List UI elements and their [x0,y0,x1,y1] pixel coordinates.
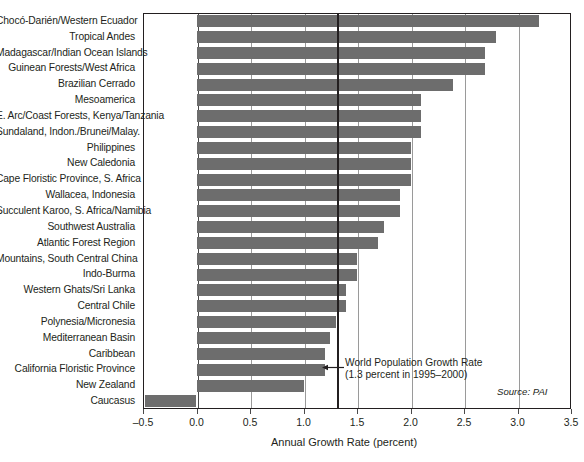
bar-row [143,235,571,251]
bar-row [143,171,571,187]
bar [197,380,304,392]
bar-row [143,330,571,346]
bar [197,174,411,186]
bar-row [143,45,571,61]
bar-row [143,251,571,267]
category-label: Cape Floristic Province, S. Africa [0,173,135,184]
category-label: Caribbean [0,348,135,359]
population-growth-bar-chart: Chocó-Darién/Western EcuadorTropical And… [0,0,584,462]
category-label: Mediterranean Basin [0,332,135,343]
category-label: Western Ghats/Sri Lanka [0,284,135,295]
x-tick-label: 2.5 [457,416,472,428]
x-tick-mark [143,409,144,414]
bar-row [143,187,571,203]
bar-row [143,314,571,330]
bar-row [143,29,571,45]
category-label: Polynesia/Micronesia [0,316,135,327]
bar [197,253,358,265]
x-tick-mark [250,409,251,414]
category-label: E. Arc/Coast Forests, Kenya/Tanzania [0,110,135,121]
bar-row [143,282,571,298]
reference-line-arrow-icon [322,363,344,372]
bar-row [143,140,571,156]
category-label: California Floristic Province [0,363,135,374]
category-label: New Zealand [0,379,135,390]
bar [197,31,497,43]
x-tick-mark [197,409,198,414]
bar [197,237,379,249]
bar-row [143,219,571,235]
category-label: Brazilian Cerrado [0,78,135,89]
bar-row [143,156,571,172]
x-axis-ticks: –0.50.00.51.01.52.02.53.03.5 [0,409,584,439]
category-label: Guinean Forests/West Africa [0,62,135,73]
bar [197,284,347,296]
x-tick-label: 1.0 [296,416,311,428]
bar [197,110,422,122]
bar [197,300,347,312]
bar-row [143,61,571,77]
category-label: Caucasus [0,395,135,406]
bar [197,47,486,59]
category-label: Succulent Karoo, S. Africa/Namibia [0,205,135,216]
bar [197,189,400,201]
annotation-line-2: (1.3 percent in 1995–2000) [345,369,482,381]
reference-line-annotation: World Population Growth Rate (1.3 percen… [345,357,482,382]
x-tick-label: –0.5 [133,416,153,428]
bar [197,269,358,281]
category-label: Central Chile [0,300,135,311]
x-tick-label: 3.5 [564,416,579,428]
category-label: Indo-Burma [0,268,135,279]
category-label: Chocó-Darién/Western Ecuador [0,15,135,26]
bar-row [143,124,571,140]
bar [197,15,539,27]
category-label: Tropical Andes [0,31,135,42]
category-label: Wallacea, Indonesia [0,189,135,200]
x-tick-mark [304,409,305,414]
bar-row [143,108,571,124]
x-tick-label: 2.0 [403,416,418,428]
category-label: Philippines [0,142,135,153]
category-label: Southwest Australia [0,221,135,232]
source-note: Source: PAI [497,386,547,397]
category-label: Atlantic Forest Region [0,237,135,248]
category-labels: Chocó-Darién/Western EcuadorTropical And… [0,13,139,409]
bar [197,79,454,91]
x-tick-label: 1.5 [350,416,365,428]
bar [197,205,400,217]
bar [197,63,486,75]
bar [197,332,331,344]
bar [197,158,411,170]
bar [197,221,384,233]
x-tick-label: 0.5 [243,416,258,428]
bar [145,395,196,407]
x-tick-mark [518,409,519,414]
bar [197,364,325,376]
bars-layer [143,13,571,409]
x-tick-mark [464,409,465,414]
bar [197,94,422,106]
bar-row [143,92,571,108]
bar-row [143,76,571,92]
bar-row [143,203,571,219]
bar [197,126,422,138]
bar-row [143,266,571,282]
category-label: Mountains, South Central China [0,253,135,264]
bar-row [143,13,571,29]
category-label: Sundaland, Indon./Brunei/Malay. [0,126,135,137]
annotation-line-1: World Population Growth Rate [345,357,482,369]
x-tick-mark [357,409,358,414]
x-tick-label: 3.0 [510,416,525,428]
bar [197,316,336,328]
x-tick-mark [571,409,572,414]
reference-line [337,14,339,408]
x-tick-label: 0.0 [189,416,204,428]
bar-row [143,298,571,314]
category-label: Mesoamerica [0,94,135,105]
bar [197,348,325,360]
category-label: New Caledonia [0,157,135,168]
bar [197,142,411,154]
category-label: Madagascar/Indian Ocean Islands [0,47,135,58]
x-tick-mark [411,409,412,414]
